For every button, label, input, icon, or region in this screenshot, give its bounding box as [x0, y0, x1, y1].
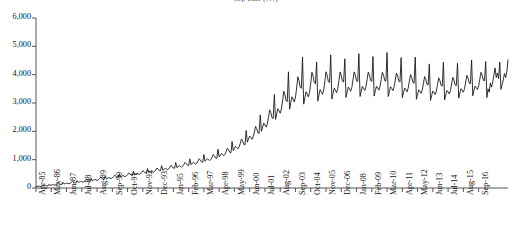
x-tick-label: Nov-92 [146, 170, 154, 195]
x-tick-label: Apr-98 [222, 172, 230, 195]
chart-container: Sep-Late (???) 01,0002,0003,0004,0005,00… [0, 0, 512, 241]
x-tick-label: Aug-02 [283, 170, 291, 195]
x-tick-label: Jul-88 [85, 175, 93, 195]
x-tick-label: Dec-06 [344, 171, 352, 195]
x-tick-label: Jun-13 [436, 173, 444, 195]
x-tick-label: Aug-15 [467, 170, 475, 195]
x-tick-label: Jun-00 [253, 173, 261, 195]
x-tick-label: Apr-11 [406, 172, 414, 195]
x-tick-label: Jan-95 [177, 173, 185, 195]
x-tick-label: Jan-08 [360, 173, 368, 195]
x-tick-label: Sep-03 [299, 172, 307, 195]
x-tick-label: Jun-87 [70, 173, 78, 195]
x-tick-label: Jul-14 [451, 175, 459, 195]
x-tick-label: Dec-93 [161, 171, 169, 195]
x-tick-label: Apr-85 [39, 172, 47, 195]
x-tick-label: Mar-10 [390, 171, 398, 195]
x-tick-label: May-86 [54, 169, 62, 195]
x-tick-label: May-12 [421, 169, 429, 195]
x-tick-label: Sep-16 [482, 172, 490, 195]
x-tick-label: Mar-97 [207, 171, 215, 195]
x-tick-label: Sep-90 [116, 172, 124, 195]
x-tick-label: Oct-04 [314, 172, 322, 195]
x-tick-label: Oct-91 [131, 172, 139, 195]
x-tick-label: Feb-96 [192, 172, 200, 195]
x-tick-label: May-99 [238, 169, 246, 195]
x-axis-tick-labels: Apr-85May-86Jun-87Jul-88Aug-89Sep-90Oct-… [0, 0, 512, 241]
x-tick-label: Feb-09 [375, 172, 383, 195]
x-tick-label: Nov-05 [329, 170, 337, 195]
x-tick-label: Aug-89 [100, 170, 108, 195]
x-tick-label: Jul-01 [268, 175, 276, 195]
